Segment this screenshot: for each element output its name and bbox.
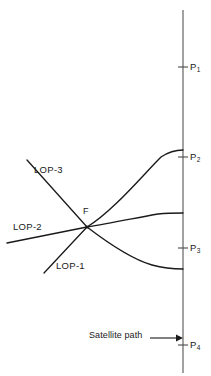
point-p1-label: P1	[190, 62, 200, 72]
lop-1-curve-to-axis	[87, 150, 183, 227]
point-p2-label: P2	[190, 152, 200, 162]
point-p4-subscript: 4	[197, 344, 201, 351]
point-p3-label: P3	[190, 243, 200, 253]
point-p4-label: P4	[190, 340, 200, 350]
point-p2-base: P	[190, 151, 197, 162]
point-p3-subscript: 3	[197, 247, 201, 254]
arrow-head-icon	[176, 335, 183, 342]
fix-point-label: F	[83, 207, 89, 216]
point-p2-subscript: 2	[197, 156, 201, 163]
point-p4-base: P	[190, 339, 197, 350]
lop-3-label: LOP-3	[34, 165, 63, 175]
point-p1-subscript: 1	[197, 66, 201, 73]
lop-3-curve-to-axis	[87, 227, 183, 269]
satellite-path-label: Satellite path	[89, 331, 142, 340]
lop-2-label: LOP-2	[13, 222, 42, 232]
lop-2-curve-to-axis	[87, 213, 183, 227]
point-p1-base: P	[190, 61, 197, 72]
diagram-canvas	[0, 0, 211, 376]
satellite-path-arrow	[150, 335, 183, 342]
lop-satellite-fix-diagram: LOP-3 LOP-2 LOP-1 F Satellite path P1 P2…	[0, 0, 211, 376]
point-p3-base: P	[190, 242, 197, 253]
lop-1-label: LOP-1	[56, 261, 85, 271]
fix-point-marker	[85, 225, 88, 228]
